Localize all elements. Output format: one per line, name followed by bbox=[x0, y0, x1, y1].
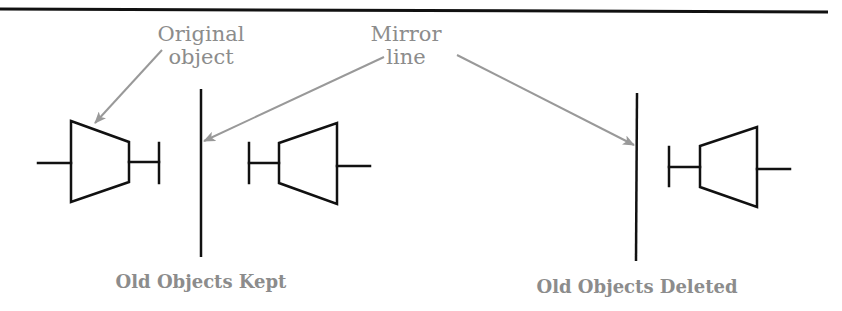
panel-old-objects-deleted: Old Objects Deleted bbox=[537, 93, 790, 297]
callout-original-object: Original object bbox=[95, 22, 245, 123]
arrow-icon bbox=[95, 50, 162, 123]
callout-mirror-line1: Mirror bbox=[371, 22, 443, 46]
original-object-icon bbox=[38, 121, 159, 202]
caption-old-objects-deleted: Old Objects Deleted bbox=[537, 276, 738, 297]
mirror-line-deleted bbox=[636, 93, 637, 261]
arrow-icon bbox=[457, 55, 634, 145]
callout-original-line1: Original bbox=[158, 22, 245, 46]
top-rule bbox=[0, 9, 828, 12]
callout-original-line2: object bbox=[168, 45, 234, 69]
caption-old-objects-kept: Old Objects Kept bbox=[116, 271, 288, 292]
mirrored-object-icon bbox=[669, 127, 790, 207]
mirror-diagram: Old Objects Kept Old Objects Deleted Ori… bbox=[0, 0, 842, 311]
panel-old-objects-kept: Old Objects Kept bbox=[38, 89, 370, 292]
mirrored-object-icon bbox=[249, 123, 370, 204]
callout-mirror-line: Mirror line bbox=[204, 22, 634, 145]
callout-mirror-line2: line bbox=[386, 45, 425, 69]
arrow-icon bbox=[204, 57, 384, 141]
